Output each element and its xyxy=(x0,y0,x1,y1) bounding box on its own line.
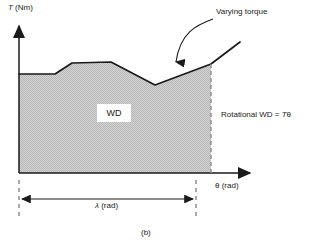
x-axis-label: θ (rad) xyxy=(215,182,239,190)
lambda-span-label: λ (rad) xyxy=(95,202,118,210)
y-axis-label: T (Nm) xyxy=(8,4,33,12)
rotational-wd-prefix: Rotational WD = xyxy=(221,110,282,119)
work-done-label: WD xyxy=(97,104,131,122)
varying-torque-leader-arrow xyxy=(176,19,213,62)
rotational-work-done-label: Rotational WD = Tθ xyxy=(221,111,291,119)
figure-rotational-work-done: T (Nm) Varying torque Rotational WD = Tθ… xyxy=(0,0,311,247)
varying-torque-label: Varying torque xyxy=(216,8,267,16)
diagram-canvas xyxy=(0,0,311,247)
lambda-units: (rad) xyxy=(99,201,118,210)
rotational-wd-suffix: θ xyxy=(287,110,291,119)
figure-caption: (b) xyxy=(141,229,151,237)
y-axis-units: (Nm) xyxy=(13,3,33,12)
x-axis-units: (rad) xyxy=(219,181,238,190)
